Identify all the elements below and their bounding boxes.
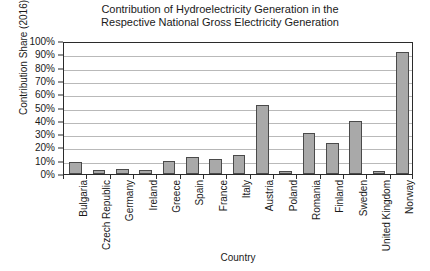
bar: [186, 157, 199, 174]
bar: [69, 162, 82, 174]
y-axis-tick-label: 60%: [35, 90, 55, 100]
y-axis-tick-label: 90%: [35, 50, 55, 60]
x-axis-tick-mark: [366, 175, 367, 179]
bar: [163, 161, 176, 174]
x-axis-tick-mark: [86, 175, 87, 179]
bar: [116, 169, 129, 174]
bar: [396, 52, 409, 174]
bar: [326, 143, 339, 174]
x-axis-tick-mark: [390, 175, 391, 179]
x-axis-tick-mark: [412, 175, 413, 179]
y-axis-tick-label: 100%: [29, 37, 55, 47]
y-axis-tick-labels: 0%10%20%30%40%50%60%70%80%90%100%: [0, 42, 63, 175]
x-axis-tick-label: Greece: [172, 180, 182, 213]
x-axis-tick-label: Italy: [242, 180, 252, 198]
x-axis-tick-label: Norway: [405, 180, 415, 214]
x-axis-tick-label: Romania: [312, 180, 322, 220]
y-axis-tick-label: 50%: [35, 104, 55, 114]
x-axis-tick-label: Bulgaria: [79, 180, 89, 217]
x-axis-tick-label: Spain: [195, 180, 205, 206]
bar: [256, 105, 269, 174]
x-axis-tick-mark: [250, 175, 251, 179]
x-axis-tick-mark: [296, 175, 297, 179]
y-axis-tick-label: 20%: [35, 143, 55, 153]
bar: [233, 155, 246, 174]
x-axis-tick-mark: [180, 175, 181, 179]
bar: [303, 133, 316, 174]
chart-figure: Contribution of Hydroelectricity Generat…: [0, 0, 430, 271]
x-axis-title: Country: [63, 252, 413, 263]
x-axis-tick-label: Finland: [335, 180, 345, 213]
x-axis-tick-mark: [203, 175, 204, 179]
x-axis-tick-mark: [226, 175, 227, 179]
y-axis-tick-label: 40%: [35, 117, 55, 127]
x-axis-tick-mark: [343, 175, 344, 179]
x-axis-tick-mark: [273, 175, 274, 179]
bar: [93, 170, 106, 174]
x-axis-tick-label: Czech Republic: [102, 180, 112, 250]
y-axis-tick-label: 80%: [35, 64, 55, 74]
chart-title-line-2: Respective National Gross Electricity Ge…: [30, 16, 410, 29]
chart-title-line-1: Contribution of Hydroelectricity Generat…: [30, 3, 410, 16]
chart-title: Contribution of Hydroelectricity Generat…: [30, 3, 410, 29]
bar: [279, 171, 292, 174]
bar: [349, 121, 362, 174]
bars-layer: [64, 43, 412, 174]
x-axis-tick-label: United Kingdom: [382, 180, 392, 251]
bar: [139, 170, 152, 174]
plot-area: [63, 42, 413, 175]
x-axis-tick-label: Germany: [125, 180, 135, 221]
y-axis-tick-label: 0%: [41, 170, 55, 180]
y-axis-tick-label: 30%: [35, 130, 55, 140]
x-axis-tick-label: Austria: [265, 180, 275, 211]
x-axis-tick-mark: [156, 175, 157, 179]
x-axis-tick-labels: BulgariaCzech RepublicGermanyIrelandGree…: [63, 180, 413, 255]
x-axis-tick-label: Sweden: [359, 180, 369, 216]
x-axis-tick-mark: [133, 175, 134, 179]
x-axis-tick-mark: [110, 175, 111, 179]
bar: [209, 159, 222, 174]
y-axis-tick-label: 10%: [35, 157, 55, 167]
y-axis-tick-label: 70%: [35, 77, 55, 87]
x-axis-tick-mark: [63, 175, 64, 179]
x-axis-tick-label: France: [219, 180, 229, 211]
x-axis-tick-label: Poland: [289, 180, 299, 211]
x-axis-tick-mark: [320, 175, 321, 179]
bar: [373, 171, 386, 174]
x-axis-tick-label: Ireland: [149, 180, 159, 211]
